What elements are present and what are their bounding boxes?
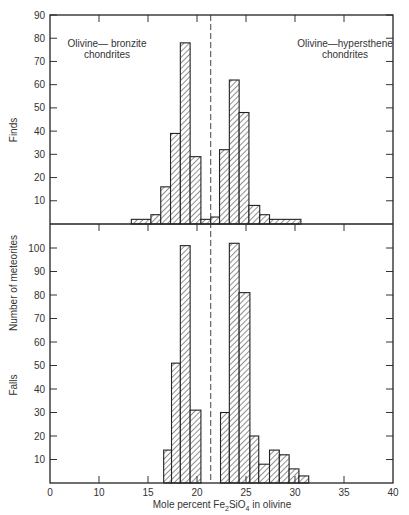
y-tick-label: 80 [34, 33, 46, 44]
annotation-1: Olivine—hypersthenechondrites [297, 38, 393, 60]
y-tick-label: 100 [28, 243, 45, 254]
y-tick-label: 70 [34, 313, 46, 324]
y-tick-label: 10 [34, 454, 46, 465]
histogram-bar [289, 469, 299, 483]
histogram-bar [229, 243, 239, 483]
histogram-bar [190, 410, 201, 483]
histogram-bar [131, 219, 151, 224]
histogram-chart: 102030405060708090FindsOlivine— bronzite… [0, 0, 409, 515]
y-tick-label: 20 [34, 172, 46, 183]
x-tick-label: 15 [142, 487, 154, 498]
y-tick-label: 70 [34, 56, 46, 67]
histogram-bar [299, 476, 309, 483]
histogram-bar [249, 205, 260, 224]
panel-label-finds: Finds [8, 118, 19, 142]
histogram-bar [151, 215, 161, 224]
histogram-bar [221, 413, 230, 484]
x-axis-label: Mole percent Fe2SiO4 in olivine [153, 499, 292, 512]
histogram-bar [201, 219, 211, 224]
y-tick-label: 40 [34, 126, 46, 137]
histogram-bar [239, 293, 250, 483]
histogram-bar [190, 157, 201, 224]
y-tick-label: 90 [34, 10, 46, 21]
y-tick-label: 40 [34, 384, 46, 395]
histogram-bar [171, 133, 181, 224]
y-tick-label: 60 [34, 337, 46, 348]
x-tick-label: 0 [47, 487, 53, 498]
histogram-bar [180, 246, 190, 483]
y-tick-label: 50 [34, 102, 46, 113]
x-tick-label: 25 [240, 487, 252, 498]
histogram-bar [260, 215, 270, 224]
x-tick-label: 30 [289, 487, 301, 498]
histogram-bar [250, 436, 259, 483]
annotation-0: Olivine— bronzitechondrites [68, 38, 147, 60]
histogram-bar [211, 217, 220, 224]
y-tick-label: 20 [34, 431, 46, 442]
histogram-bar [229, 80, 239, 224]
y-axis-label: Number of meteorites [8, 235, 19, 331]
y-tick-label: 50 [34, 360, 46, 371]
finds-panel: 102030405060708090FindsOlivine— bronzite… [8, 10, 393, 225]
y-tick-label: 30 [34, 407, 46, 418]
histogram-bar [180, 43, 190, 224]
y-tick-label: 60 [34, 79, 46, 90]
panel-label-falls: Falls [8, 374, 19, 395]
histogram-bar [239, 113, 249, 224]
histogram-bar [164, 450, 172, 483]
histogram-bar [259, 464, 270, 483]
y-tick-label: 90 [34, 266, 46, 277]
x-tick-label: 20 [191, 487, 203, 498]
histogram-bar [220, 150, 230, 224]
x-tick-label: 10 [93, 487, 105, 498]
histogram-bar [270, 219, 301, 224]
histogram-bar [172, 363, 181, 483]
y-tick-label: 10 [34, 195, 46, 206]
y-tick-label: 30 [34, 149, 46, 160]
histogram-bar [279, 455, 289, 483]
histogram-bar [161, 187, 171, 224]
x-tick-label: 35 [338, 487, 350, 498]
falls-panel: 102030405060708090100Falls [8, 224, 393, 483]
histogram-bar [270, 450, 280, 483]
x-tick-label: 40 [387, 487, 399, 498]
y-tick-label: 80 [34, 290, 46, 301]
